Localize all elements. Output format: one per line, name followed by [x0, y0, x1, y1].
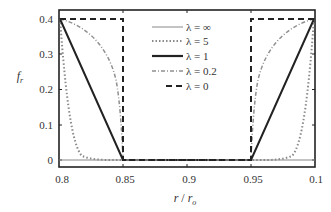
legend-label: λ = 1 [186, 50, 209, 62]
x-tick-label: 0.85 [115, 173, 135, 185]
y-axis-label: fr [17, 69, 24, 85]
y-tick-labels: 0 0.1 0.2 0.3 0.4 [39, 13, 53, 166]
legend-item: λ = 1 [152, 50, 209, 62]
legend-item: λ = 5 [152, 35, 209, 47]
y-tick-label: 0.1 [39, 119, 53, 131]
y-tick-label: 0.4 [39, 13, 53, 25]
x-tick-label: 0.9 [182, 173, 196, 185]
x-tick-labels: 0.8 0.85 0.9 0.95 0.1 [55, 173, 323, 185]
legend-label: λ = 0.2 [186, 65, 217, 77]
y-tick-label: 0.2 [39, 83, 53, 95]
y-tick-label: 0 [48, 154, 54, 166]
legend-item: λ = ∞ [152, 21, 211, 33]
y-tick-label: 0.3 [39, 48, 53, 60]
legend-label: λ = 5 [186, 35, 209, 47]
x-tick-label: 0.8 [55, 173, 69, 185]
x-axis-label: r / ro [174, 191, 197, 207]
legend: λ = ∞ λ = 5 λ = 1 λ = 0.2 λ = 0 [152, 21, 217, 92]
x-tick-label: 0.1 [309, 173, 323, 185]
x-tick-label: 0.95 [243, 173, 263, 185]
legend-item: λ = 0 [166, 80, 209, 92]
legend-label: λ = ∞ [186, 21, 211, 33]
legend-label: λ = 0 [186, 80, 209, 92]
line-chart: 0 0.1 0.2 0.3 0.4 0.8 0.85 0.9 0.95 0.1 … [0, 0, 331, 212]
legend-item: λ = 0.2 [152, 65, 217, 77]
